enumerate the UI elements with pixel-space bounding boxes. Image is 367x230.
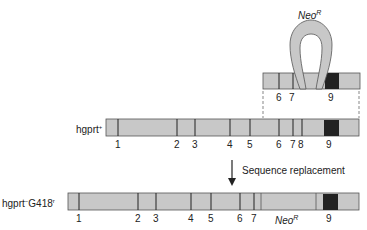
- targeting-construct: [263, 20, 360, 118]
- exon-label: 1: [115, 139, 121, 150]
- down-arrow-icon: [228, 160, 236, 186]
- exon-label: 2: [174, 139, 180, 150]
- exon-label: 5: [247, 139, 253, 150]
- exon-label: 9: [326, 139, 332, 150]
- exon-label: 3: [192, 139, 198, 150]
- mutant-neo-label: NeoR: [275, 212, 298, 226]
- exon-label: 7: [251, 213, 257, 224]
- wildtype-gene-bar: [106, 119, 359, 136]
- exon-label: 2: [135, 213, 141, 224]
- exon-label: 3: [153, 213, 159, 224]
- sequence-replacement-label: Sequence replacement: [242, 165, 345, 176]
- exon-label: 8: [298, 139, 304, 150]
- exon-label: 7: [290, 139, 296, 150]
- gene-targeting-diagram: [0, 0, 367, 230]
- mutant-gene-bar: [68, 193, 359, 210]
- exon-label: 6: [276, 139, 282, 150]
- construct-exon-label: 7: [289, 92, 295, 103]
- exon-label: 1: [76, 213, 82, 224]
- neo-insert-label: NeoR: [298, 7, 321, 21]
- mutant-gene-label: hgprt−G418r: [2, 196, 55, 209]
- exon-label: 6: [237, 213, 243, 224]
- wildtype-gene-label: hgprt+: [76, 122, 102, 135]
- construct-exon-label: 9: [328, 92, 334, 103]
- construct-exon-label: 6: [276, 92, 282, 103]
- exon-label: 9: [326, 213, 332, 224]
- exon-label: 4: [188, 213, 194, 224]
- exon-label: 5: [208, 213, 214, 224]
- exon-label: 4: [227, 139, 233, 150]
